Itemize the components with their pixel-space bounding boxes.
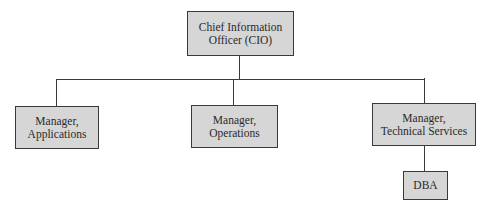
node-applications-line2: Applications [28,128,87,141]
connector-operations [233,80,234,105]
connector-dba [424,145,425,171]
node-manager-applications: Manager, Applications [15,106,99,149]
node-applications-line1: Manager, [35,115,78,128]
connector-cio-down [239,55,240,79]
node-manager-operations: Manager, Operations [191,105,278,148]
node-cio-line2: Officer (CIO) [209,34,272,47]
node-operations-line2: Operations [209,127,259,140]
node-cio-line1: Chief Information [199,21,282,34]
node-operations-line1: Manager, [213,114,256,127]
connector-applications [56,80,57,106]
connector-horizontal [56,79,425,80]
node-technical-line1: Manager, [402,112,445,125]
node-manager-technical-services: Manager, Technical Services [372,103,476,146]
node-dba: DBA [403,171,448,200]
node-cio: Chief Information Officer (CIO) [187,11,294,56]
connector-technical-services [424,78,425,103]
node-technical-line2: Technical Services [381,125,467,138]
node-dba-label: DBA [413,179,437,192]
